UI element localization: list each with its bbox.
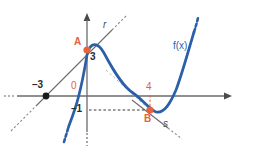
function-curve-upper-dash — [194, 18, 198, 32]
line-s-dashed — [168, 128, 182, 139]
origin-label: 0 — [71, 81, 77, 91]
graph-canvas — [0, 0, 256, 150]
function-graph-figure: r s f(x) A B 3 –3 0 4 –1 — [0, 0, 256, 150]
line-r-label: r — [103, 20, 106, 30]
line-s-label: s — [163, 119, 168, 129]
point-x-root-minus-3 — [43, 93, 50, 100]
line-r-dashed-upper — [112, 16, 126, 30]
y-axis-arrowhead — [84, 13, 91, 21]
x-root-left-label: –3 — [32, 80, 43, 90]
point-a-label: A — [74, 37, 81, 47]
y-intercept-value-label: 3 — [90, 52, 96, 62]
point-b-label: B — [144, 114, 151, 124]
line-r-dashed-lower — [11, 106, 36, 131]
function-curve-lower-dash — [64, 127, 69, 142]
b-y-value-label: –1 — [71, 104, 82, 114]
b-x-value-label: 4 — [146, 82, 152, 92]
function-label: f(x) — [173, 41, 187, 51]
x-axis-arrowhead — [224, 92, 232, 99]
